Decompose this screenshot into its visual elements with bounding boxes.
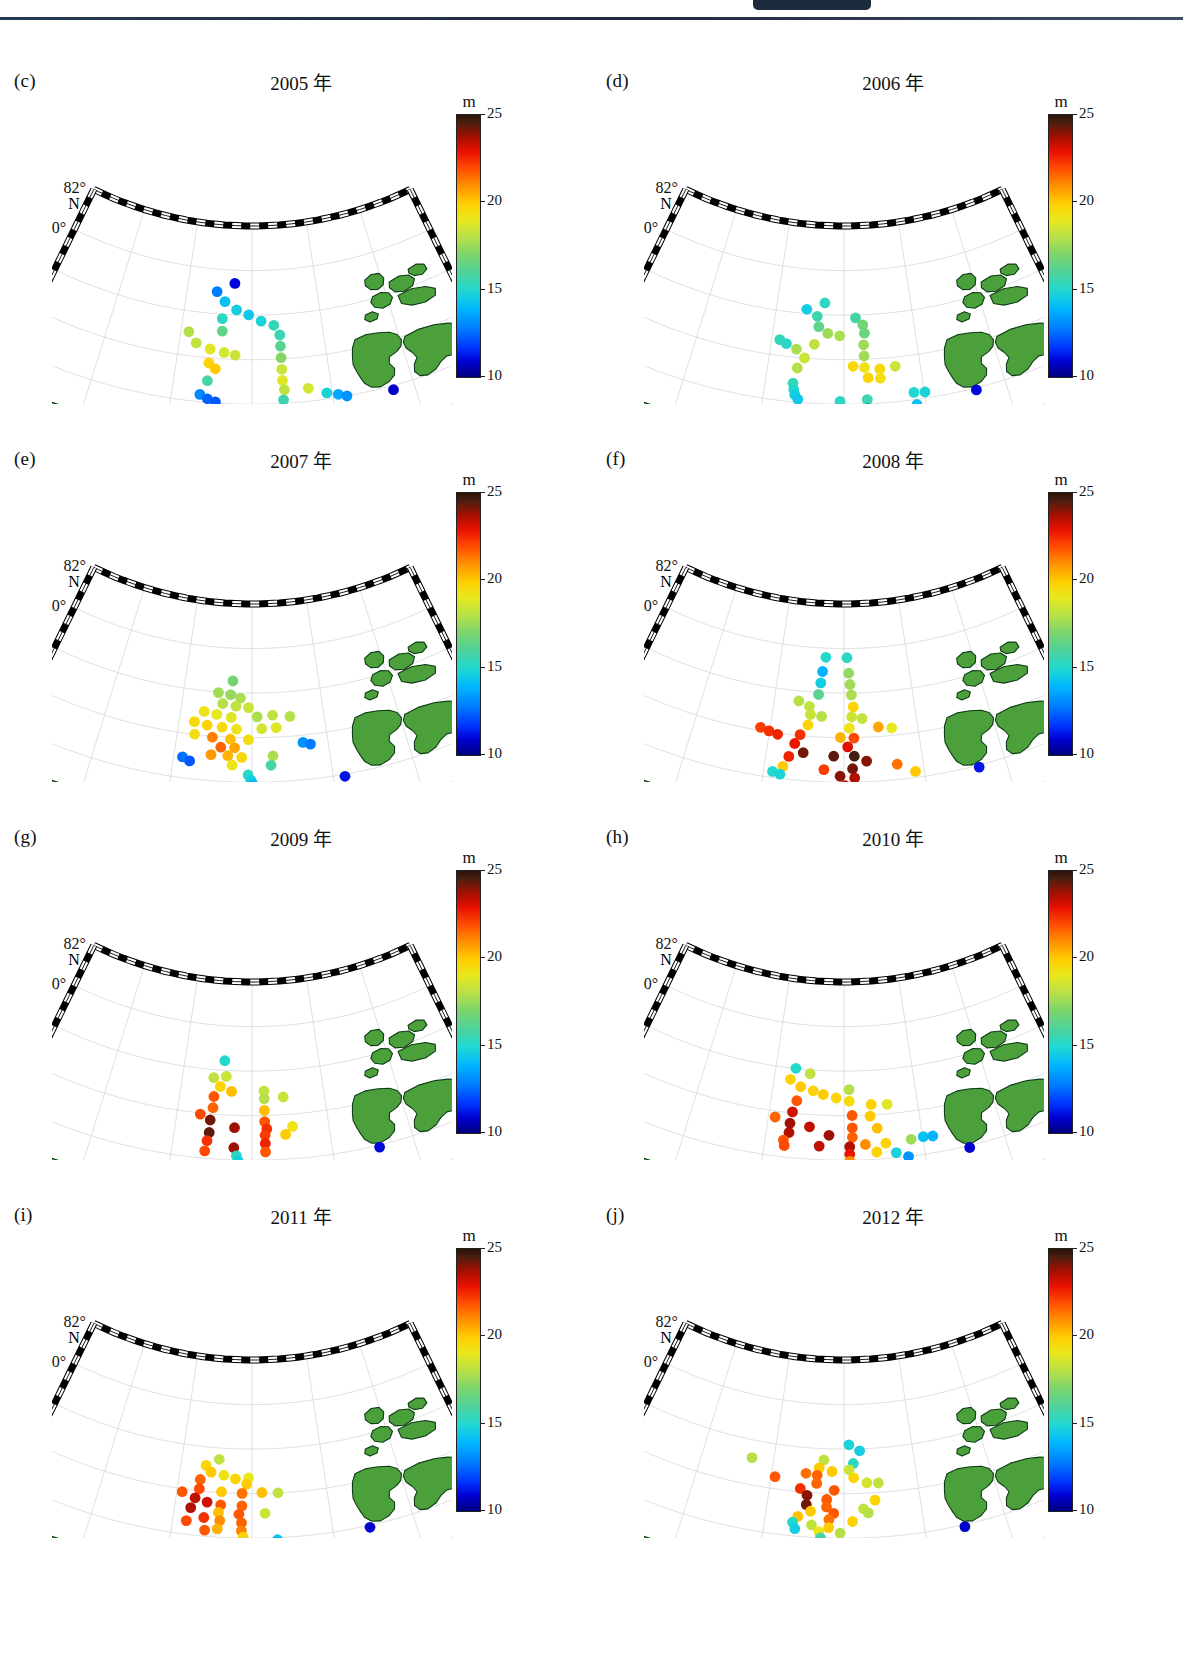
data-point	[241, 1479, 252, 1490]
data-point	[859, 351, 870, 362]
latitude-label: 80°	[644, 597, 658, 614]
latitude-label: 82°	[655, 1313, 677, 1330]
latitude-label: 82°	[63, 179, 85, 196]
data-point	[747, 1452, 758, 1463]
data-point	[870, 1495, 881, 1506]
data-point	[206, 749, 217, 760]
data-point	[805, 1068, 816, 1079]
data-point	[803, 720, 814, 731]
data-point	[799, 353, 810, 364]
data-point	[813, 321, 824, 332]
data-point	[260, 1508, 271, 1519]
data-point	[822, 328, 833, 339]
data-point	[230, 350, 241, 361]
data-point	[202, 720, 213, 731]
data-point	[206, 1467, 217, 1478]
data-point	[791, 1095, 802, 1106]
map-panel-2010: (h)2010 年82°80°78°76°74°72°70°68°N170°16…	[598, 816, 1158, 1186]
data-point	[781, 338, 792, 349]
colorbar-tick-mark	[1072, 1248, 1077, 1249]
data-point	[875, 373, 886, 384]
data-point	[189, 716, 200, 727]
data-point	[225, 689, 236, 700]
panel-tag: (f)	[606, 448, 626, 470]
data-point	[770, 1112, 781, 1123]
data-point	[181, 1515, 192, 1526]
data-point	[910, 766, 921, 777]
data-point	[195, 1474, 206, 1485]
data-point	[184, 756, 195, 767]
latitude-label: 80°	[644, 1353, 658, 1370]
colorbar-unit-label: m	[454, 92, 484, 112]
data-point	[785, 1074, 796, 1085]
data-point	[237, 1488, 248, 1499]
data-point	[871, 1147, 882, 1158]
colorbar-unit-label: m	[1046, 1226, 1076, 1246]
latitude-label: 80°	[644, 975, 658, 992]
data-point	[835, 732, 846, 743]
map-area: 82°80°78°76°74°72°70°68°N170°160°150°140…	[52, 1220, 452, 1538]
colorbar-tick-label: 15	[487, 658, 502, 675]
colorbar: m25201510	[454, 1228, 550, 1528]
data-point	[787, 1107, 798, 1118]
data-point	[882, 1099, 893, 1110]
data-point	[207, 732, 218, 743]
colorbar-tick-label: 10	[487, 367, 502, 384]
panel-tag: (g)	[14, 826, 37, 848]
colorbar-unit-label: m	[1046, 848, 1076, 868]
data-point	[212, 1524, 223, 1535]
data-point	[199, 1146, 210, 1157]
panel-tag: (c)	[14, 70, 36, 92]
data-point	[184, 326, 195, 337]
colorbar-ticks: 25201510	[480, 1248, 540, 1510]
data-point	[227, 760, 238, 771]
colorbar-tick-label: 10	[487, 1123, 502, 1140]
colorbar-tick-mark	[1072, 289, 1077, 290]
data-point	[848, 1472, 859, 1483]
map-canvas: 82°80°78°76°74°72°70°68°N170°160°150°140…	[52, 464, 452, 782]
data-point	[256, 723, 267, 734]
colorbar-tick-label: 20	[1079, 1326, 1094, 1343]
colorbar-tick-label: 15	[487, 1036, 502, 1053]
latitude-label: 80°	[52, 975, 66, 992]
colorbar-tick-label: 15	[1079, 658, 1094, 675]
data-point	[190, 1492, 201, 1503]
data-point	[215, 1081, 226, 1092]
data-point	[260, 1147, 271, 1158]
data-point	[816, 711, 827, 722]
data-point	[846, 712, 857, 723]
colorbar-gradient	[456, 114, 481, 378]
data-point	[873, 722, 884, 733]
colorbar-tick-label: 10	[1079, 745, 1094, 762]
colorbar: m25201510	[1046, 472, 1142, 772]
data-point	[804, 1121, 815, 1132]
data-point	[847, 1132, 858, 1143]
data-point	[860, 1139, 871, 1150]
data-point	[865, 1111, 876, 1122]
data-point	[266, 760, 277, 771]
panel-tag: (h)	[606, 826, 629, 848]
data-point	[205, 1115, 216, 1126]
data-point	[823, 1522, 834, 1533]
latitude-label: 80°	[644, 219, 658, 236]
colorbar-ticks: 25201510	[1072, 114, 1132, 376]
data-point	[198, 1512, 209, 1523]
colorbar-tick-mark	[1072, 957, 1077, 958]
map-canvas: 82°80°78°76°74°72°70°68°N170°160°150°140…	[644, 464, 1044, 782]
latitude-label: 82°	[63, 935, 85, 952]
colorbar-tick-mark	[480, 957, 485, 958]
data-point	[342, 391, 353, 402]
colorbar-tick-mark	[480, 1510, 485, 1511]
data-point	[217, 722, 228, 733]
colorbar-tick-mark	[480, 1335, 485, 1336]
data-point	[219, 1055, 230, 1066]
data-point	[811, 1478, 822, 1489]
colorbar-gradient	[1048, 114, 1073, 378]
data-point	[849, 733, 860, 744]
data-point	[844, 1439, 855, 1450]
data-point	[789, 1523, 800, 1534]
data-point	[858, 339, 869, 350]
data-point	[267, 710, 278, 721]
colorbar-tick-label: 25	[487, 861, 502, 878]
colorbar-tick-mark	[480, 579, 485, 580]
